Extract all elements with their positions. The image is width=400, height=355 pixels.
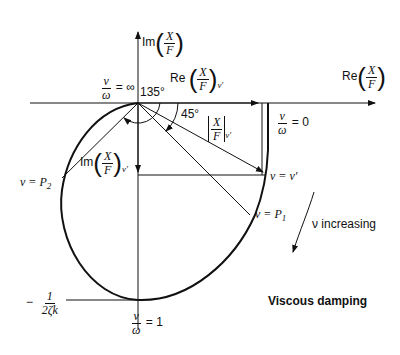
angle-45-arc: [166, 103, 178, 131]
magnitude-label: XFν′: [208, 116, 231, 142]
p2-label: ν = P2: [20, 176, 51, 191]
angle-135-label: 135°: [140, 86, 165, 98]
re-at-nuprime-label: Re (XF)ν′: [170, 66, 223, 92]
nu-increasing-label: ν increasing: [312, 218, 376, 230]
min-value-label: − 12ζk: [26, 290, 60, 316]
nu-omega-infinity-label: νω = ∞: [100, 75, 135, 101]
nu-omega-zero-label: νω = 0: [276, 110, 309, 136]
nu-prime-point-label: ν = ν′: [270, 170, 297, 182]
im-at-nuprime-label: Im(XF)ν′: [80, 150, 128, 176]
real-axis-label: Re(XF): [342, 64, 386, 90]
p1-label: ν = P1: [255, 208, 286, 223]
nu-increasing-arrow: [293, 192, 314, 252]
nu-omega-one-label: νω = 1: [130, 310, 163, 336]
diagram-title: Viscous damping: [268, 295, 367, 307]
imag-axis-label: Im(XF): [142, 30, 184, 56]
angle-45-label: 45°: [181, 108, 199, 120]
